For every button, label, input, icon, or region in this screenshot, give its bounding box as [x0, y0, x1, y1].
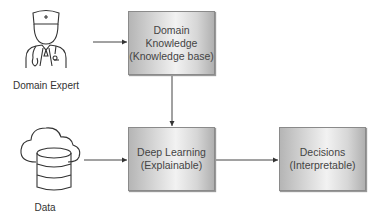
deep-learning-line1: Deep Learning — [137, 146, 206, 159]
data-label: Data — [20, 202, 70, 213]
cloud-database-icon — [16, 124, 86, 194]
domain-knowledge-line1: Domain — [129, 24, 214, 37]
domain-knowledge-line2: Knowledge — [129, 37, 214, 50]
deep-learning-box: Deep Learning (Explainable) — [128, 127, 215, 191]
domain-expert-label: Domain Expert — [2, 80, 90, 91]
decisions-line2: (Interpretable) — [290, 159, 356, 172]
deep-learning-line2: (Explainable) — [137, 159, 206, 172]
domain-knowledge-box: Domain Knowledge (Knowledge base) — [128, 11, 215, 75]
doctor-icon — [22, 8, 70, 70]
decisions-line1: Decisions — [290, 146, 356, 159]
domain-knowledge-line3: (Knowledge base) — [129, 50, 214, 63]
decisions-box: Decisions (Interpretable) — [279, 127, 366, 191]
